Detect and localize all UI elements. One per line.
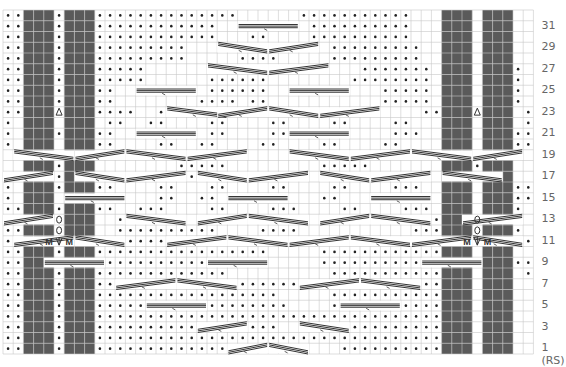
purl-dot (343, 14, 346, 17)
purl-dot (109, 14, 112, 17)
cable-cross-icon (411, 150, 472, 161)
purl-dot (262, 326, 265, 329)
purl-dot (374, 14, 377, 17)
purl-dot (150, 122, 153, 125)
purl-dot (109, 304, 112, 307)
no-stitch-cell (44, 75, 54, 86)
no-stitch-cell (64, 75, 74, 86)
no-stitch-cell (64, 171, 74, 182)
no-stitch-cell (462, 279, 472, 290)
purl-dot (405, 315, 408, 318)
no-stitch-cell (23, 75, 33, 86)
purl-dot (150, 229, 153, 232)
purl-dot (272, 326, 275, 329)
no-stitch-cell (482, 118, 492, 129)
purl-dot (221, 251, 224, 254)
no-stitch-cell (442, 107, 452, 118)
purl-dot (262, 315, 265, 318)
purl-dot (384, 272, 387, 275)
purl-dot (354, 36, 357, 39)
no-stitch-cell (482, 107, 492, 118)
no-stitch-cell (503, 10, 513, 21)
purl-dot (150, 315, 153, 318)
cable-cross-icon (217, 107, 268, 118)
purl-dot (201, 36, 204, 39)
no-stitch-cell (44, 322, 54, 333)
purl-dot (405, 186, 408, 189)
purl-dot (313, 25, 316, 28)
no-stitch-cell (74, 42, 84, 53)
purl-dot (415, 132, 418, 135)
purl-dot (364, 337, 367, 340)
no-stitch-cell (44, 10, 54, 21)
purl-dot (99, 25, 102, 28)
no-stitch-cell (482, 247, 492, 258)
cable-cross-icon (289, 86, 350, 96)
purl-dot (139, 251, 142, 254)
purl-dot (343, 46, 346, 49)
purl-dot (252, 326, 255, 329)
purl-dot (119, 46, 122, 49)
no-stitch-cell (34, 85, 44, 96)
purl-dot (364, 79, 367, 82)
no-stitch-cell (503, 247, 513, 258)
purl-dot (58, 68, 61, 71)
no-stitch-cell (64, 343, 74, 354)
no-stitch-cell (482, 311, 492, 322)
purl-dot (394, 122, 397, 125)
purl-dot (425, 229, 428, 232)
purl-dot (129, 337, 132, 340)
no-stitch-cell (462, 343, 472, 354)
no-stitch-cell (74, 53, 84, 64)
purl-dot (58, 304, 61, 307)
purl-dot (7, 272, 10, 275)
purl-dot (272, 283, 275, 286)
purl-dot (384, 100, 387, 103)
purl-dot (272, 143, 275, 146)
no-stitch-cell (34, 311, 44, 322)
purl-dot (282, 304, 285, 307)
purl-dot (17, 57, 20, 60)
purl-dot (394, 46, 397, 49)
purl-dot (150, 337, 153, 340)
purl-dot (129, 294, 132, 297)
purl-dot (119, 251, 122, 254)
no-stitch-cell (23, 247, 33, 258)
no-stitch-cell (23, 257, 33, 268)
no-stitch-cell (452, 311, 462, 322)
purl-dot (7, 111, 10, 114)
purl-dot (7, 186, 10, 189)
no-stitch-cell (34, 21, 44, 32)
cable-cross-icon (146, 301, 207, 311)
purl-dot (394, 337, 397, 340)
cable-cross-icon (248, 171, 309, 182)
purl-dot (7, 326, 10, 329)
cable-cross-icon (176, 279, 237, 290)
purl-dot (129, 251, 132, 254)
purl-dot (405, 25, 408, 28)
purl-dot (262, 294, 265, 297)
purl-dot (405, 304, 408, 307)
row-label: 25 (541, 83, 555, 96)
purl-dot (109, 186, 112, 189)
purl-dot (333, 251, 336, 254)
no-stitch-cell (462, 290, 472, 301)
purl-dot (405, 208, 408, 211)
purl-dot (99, 208, 102, 211)
purl-dot (129, 46, 132, 49)
purl-dot (343, 251, 346, 254)
purl-dot (394, 272, 397, 275)
no-stitch-cell (503, 161, 513, 172)
purl-dot (58, 57, 61, 60)
no-stitch-cell (503, 333, 513, 344)
purl-dot (129, 111, 132, 114)
purl-dot (415, 272, 418, 275)
purl-dot (384, 337, 387, 340)
purl-dot (231, 315, 234, 318)
no-stitch-cell (442, 225, 452, 236)
purl-dot (190, 251, 193, 254)
purl-dot (119, 294, 122, 297)
purl-dot (170, 337, 173, 340)
no-stitch-cell (462, 42, 472, 53)
no-stitch-cell (462, 161, 472, 172)
